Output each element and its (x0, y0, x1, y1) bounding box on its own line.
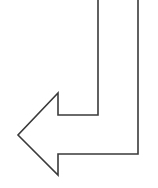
diagram-canvas (0, 0, 158, 188)
bent-arrow-left-icon (18, 0, 138, 175)
